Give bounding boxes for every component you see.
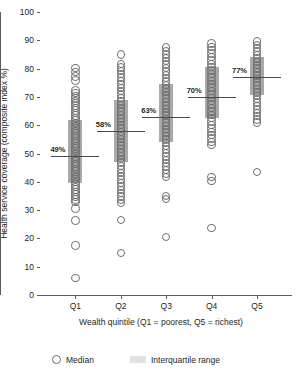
y-axis-line xyxy=(0,12,1,295)
data-point xyxy=(207,177,215,185)
x-tick xyxy=(75,296,76,299)
data-point xyxy=(71,216,79,224)
x-tick xyxy=(212,296,213,299)
x-tick xyxy=(166,296,167,299)
y-tick-label: 40 xyxy=(4,178,34,187)
median-label: 77% xyxy=(232,67,247,75)
y-tick-label: 30 xyxy=(4,206,34,215)
y-tick-label: 50 xyxy=(4,150,34,159)
legend-iqr-label: Interquartile range xyxy=(151,355,220,365)
data-point xyxy=(71,274,79,282)
x-tick-label: Q4 xyxy=(197,302,227,311)
band-marker-icon xyxy=(130,356,146,363)
median-line xyxy=(51,156,99,157)
chart-container: Health service coverage (composite index… xyxy=(0,0,299,371)
x-axis-title: Wealth quintile (Q1 = poorest, Q5 = rich… xyxy=(30,317,292,327)
y-tick-label: 60 xyxy=(4,121,34,130)
data-point xyxy=(253,118,261,126)
x-tick xyxy=(121,296,122,299)
median-line xyxy=(97,131,145,132)
y-tick xyxy=(37,295,40,296)
y-tick-label: 0 xyxy=(4,291,34,300)
median-label: 63% xyxy=(141,107,156,115)
median-line xyxy=(188,97,236,98)
data-point xyxy=(162,195,170,203)
data-point xyxy=(253,168,261,176)
data-point xyxy=(117,50,125,58)
y-tick-label: 10 xyxy=(4,263,34,272)
legend-item-iqr: Interquartile range xyxy=(130,353,220,366)
data-point xyxy=(117,216,125,224)
y-tick-label: 80 xyxy=(4,65,34,74)
legend-median-label: Median xyxy=(66,355,94,365)
data-point xyxy=(207,141,215,149)
data-point xyxy=(117,199,125,207)
data-point xyxy=(162,173,170,181)
x-tick xyxy=(257,296,258,299)
y-tick-label: 20 xyxy=(4,234,34,243)
x-tick-label: Q1 xyxy=(60,302,90,311)
data-point xyxy=(162,233,170,241)
circle-marker-icon xyxy=(52,355,61,364)
data-point xyxy=(117,249,125,257)
x-tick-label: Q2 xyxy=(106,302,136,311)
median-label: 70% xyxy=(187,87,202,95)
median-label: 49% xyxy=(50,146,65,154)
median-label: 58% xyxy=(96,121,111,129)
y-tick-label: 90 xyxy=(4,36,34,45)
median-line xyxy=(233,77,281,78)
plot-area: 49%58%63%70%77% xyxy=(40,12,292,295)
data-point xyxy=(71,204,79,212)
legend-item-median: Median xyxy=(52,353,94,366)
x-tick-label: Q3 xyxy=(151,302,181,311)
x-tick-label: Q5 xyxy=(242,302,272,311)
median-line xyxy=(142,117,190,118)
data-point xyxy=(207,224,215,232)
data-point xyxy=(71,241,79,249)
data-point xyxy=(71,76,79,84)
y-tick-label: 70 xyxy=(4,93,34,102)
chart-legend: Median Interquartile range xyxy=(0,348,299,371)
y-tick-label: 100 xyxy=(4,8,34,17)
